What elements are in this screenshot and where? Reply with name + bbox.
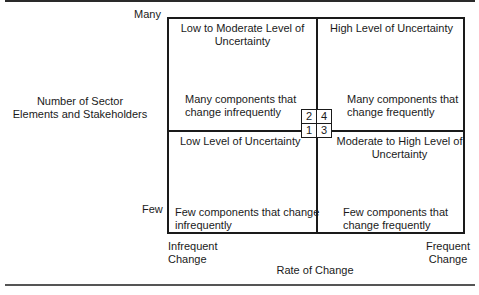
top-rule — [5, 0, 475, 2]
bottom-rule — [5, 284, 475, 286]
quadrant-2-desc-line2: change infrequently — [185, 106, 296, 119]
y-axis-low-label: Few — [142, 203, 163, 216]
y-axis-title-line1: Number of Sector — [0, 95, 160, 108]
y-axis-title: Number of Sector Elements and Stakeholde… — [0, 95, 160, 121]
x-axis-high-label-line2: Change — [422, 253, 474, 266]
x-axis-low-label-line1: Infrequent — [168, 240, 218, 253]
quadrant-3-desc-line2: change frequently — [343, 219, 448, 232]
y-axis-title-line2: Elements and Stakeholders — [0, 108, 160, 121]
x-axis-low-label: Infrequent Change — [168, 240, 218, 266]
y-axis-high-label: Many — [134, 8, 161, 21]
quadrant-1-number: 1 — [301, 123, 317, 138]
quadrant-4-description: Many components that change frequently — [347, 93, 458, 119]
quadrant-2-number: 2 — [301, 109, 317, 124]
quadrant-1-heading: Low Level of Uncertainty — [180, 135, 300, 148]
quadrant-4-desc-line2: change frequently — [347, 106, 458, 119]
quadrant-3-number: 3 — [316, 123, 332, 138]
quadrant-3-description: Few components that change frequently — [343, 206, 448, 232]
quadrant-2-heading-line1: Low to Moderate Level of — [169, 22, 316, 35]
quadrant-3-heading-line1: Moderate to High Level of — [334, 135, 465, 148]
quadrant-4-desc-line1: Many components that — [347, 93, 458, 106]
quadrant-4-heading-line1: High Level of Uncertainty — [318, 22, 465, 35]
quadrant-3-desc-line1: Few components that — [343, 206, 448, 219]
quadrant-1-desc-line1: Few components that change — [175, 206, 319, 219]
quadrant-2-description: Many components that change infrequently — [185, 93, 296, 119]
x-axis-low-label-line2: Change — [168, 253, 218, 266]
quadrant-3-heading-line2: Uncertainty — [334, 148, 465, 161]
quadrant-4-heading: High Level of Uncertainty — [318, 22, 465, 35]
quadrant-1-desc-line2: infrequently — [175, 219, 319, 232]
quadrant-1-heading-line1: Low Level of Uncertainty — [180, 135, 300, 148]
quadrant-2-heading: Low to Moderate Level of Uncertainty — [169, 22, 316, 48]
x-axis-high-label: Frequent Change — [422, 240, 474, 266]
x-axis-title: Rate of Change — [250, 264, 380, 277]
quadrant-1-description: Few components that change infrequently — [175, 206, 319, 232]
quadrant-2-desc-line1: Many components that — [185, 93, 296, 106]
quadrant-4-number: 4 — [316, 109, 332, 124]
quadrant-3-heading: Moderate to High Level of Uncertainty — [334, 135, 465, 161]
x-axis-high-label-line1: Frequent — [422, 240, 474, 253]
quadrant-2-heading-line2: Uncertainty — [169, 35, 316, 48]
